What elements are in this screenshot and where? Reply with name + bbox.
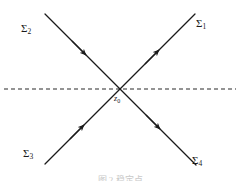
sigma-3-subscript: 3: [29, 152, 33, 161]
sigma-1-subscript: 1: [202, 22, 206, 31]
figure-caption: 图 2 稳定点: [0, 173, 240, 181]
label-sigma-4: Σ4: [192, 155, 202, 167]
sigma-2-subscript: 2: [27, 27, 31, 36]
sigma-4-subscript: 4: [198, 159, 202, 168]
label-sigma-2: Σ2: [21, 23, 31, 35]
ray-sigma-2-arrow: [72, 41, 86, 55]
figure-container: Σ2 Σ1 Σ3 Σ4 z0 图 2 稳定点: [0, 0, 240, 181]
saddle-point-subscript: 0: [117, 98, 120, 104]
ray-sigma-4-arrow: [146, 115, 160, 129]
label-sigma-1: Σ1: [196, 18, 206, 30]
label-sigma-3: Σ3: [23, 148, 33, 160]
label-saddle-point: z0: [114, 95, 120, 104]
ray-sigma-3-arrow: [70, 125, 84, 139]
ray-sigma-1-arrow: [145, 50, 159, 64]
